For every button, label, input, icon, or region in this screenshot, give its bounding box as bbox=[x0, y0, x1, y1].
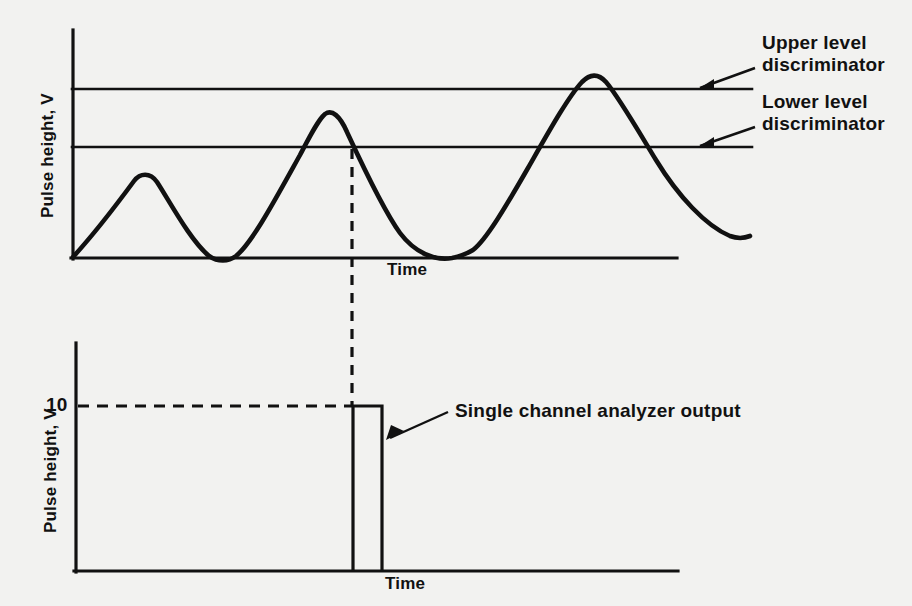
lower-level-discriminator-label: Lower level discriminator bbox=[762, 91, 885, 136]
top-chart-group bbox=[71, 30, 755, 406]
bottom-chart-y-tick-label: 10 bbox=[46, 394, 68, 416]
detector-pulse-train-curve bbox=[73, 76, 750, 261]
lower-level-discriminator-label-line2: discriminator bbox=[762, 113, 885, 135]
sca-output-callout-leader bbox=[390, 412, 448, 438]
upper-level-discriminator-label-line2: discriminator bbox=[762, 54, 885, 76]
lower-level-discriminator-label-line1: Lower level bbox=[762, 91, 868, 112]
pulse-discriminator-figure: Pulse height, V Time Upper level discrim… bbox=[0, 0, 912, 606]
single-channel-analyzer-output-pulse bbox=[353, 406, 382, 571]
top-chart-x-axis-label: Time bbox=[387, 260, 427, 280]
lower-level-callout-arrowhead bbox=[698, 137, 714, 147]
single-channel-analyzer-output-label: Single channel analyzer output bbox=[455, 400, 741, 422]
bottom-chart-group bbox=[74, 343, 678, 572]
upper-level-discriminator-label-line1: Upper level bbox=[762, 32, 867, 53]
bottom-chart-y-axis-label: Pulse height, V bbox=[41, 408, 61, 533]
bottom-chart-x-axis-label: Time bbox=[385, 574, 425, 594]
upper-level-callout-arrowhead bbox=[698, 79, 714, 89]
top-chart-y-axis-label: Pulse height, V bbox=[38, 93, 58, 218]
upper-level-discriminator-label: Upper level discriminator bbox=[762, 32, 885, 77]
